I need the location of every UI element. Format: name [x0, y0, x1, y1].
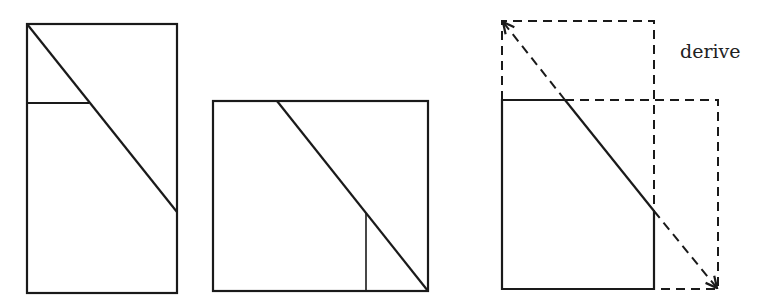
derive-label: derive — [680, 40, 741, 62]
solid-left-frame — [502, 100, 654, 289]
dashed-diagonal-lower — [654, 211, 717, 288]
diagram-canvas: derive — [0, 0, 765, 305]
solid-diagonal-segment — [565, 100, 654, 211]
outer-square — [213, 101, 428, 291]
dashed-top-rectangle — [502, 21, 654, 289]
figure-square — [213, 101, 428, 291]
diagonal-line — [277, 101, 428, 291]
outer-rectangle — [27, 24, 177, 293]
diagonal-line — [27, 24, 177, 212]
dashed-diagonal-upper — [503, 22, 565, 100]
figure-tall-rectangle — [27, 24, 177, 293]
